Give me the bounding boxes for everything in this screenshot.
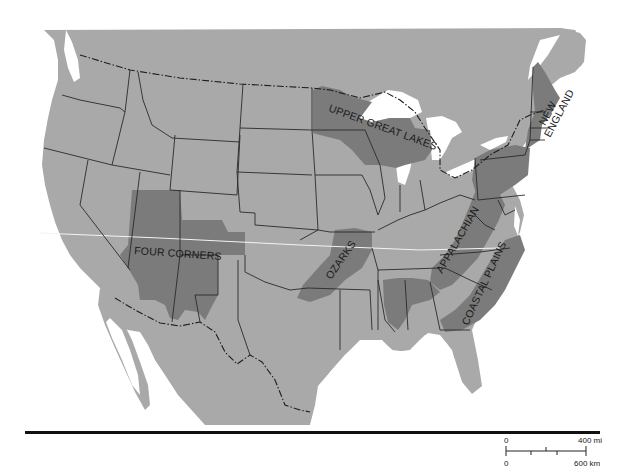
map-bottom-rule [25, 431, 600, 434]
scale-km-end: 600 km [574, 459, 600, 468]
regions-map: UPPER GREAT LAKES NEW ENGLAND FOUR CORNE… [0, 0, 627, 468]
scale-km-start: 0 [504, 459, 508, 468]
scale-ruler [500, 443, 627, 459]
scale-bar: 0 400 mi 0 600 km [500, 435, 627, 468]
